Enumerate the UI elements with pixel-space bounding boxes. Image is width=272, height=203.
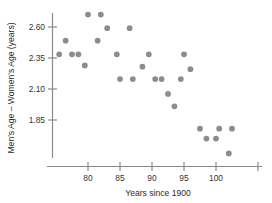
data-point	[82, 63, 88, 69]
data-point	[56, 51, 62, 57]
data-point	[159, 76, 165, 82]
data-point	[117, 76, 123, 82]
y-axis-title: Men's Age – Women's Age (years)	[6, 22, 16, 153]
data-point	[216, 126, 222, 132]
data-point	[69, 51, 75, 57]
data-point	[95, 38, 101, 44]
data-point	[181, 51, 187, 57]
x-axis-title: Years since 1900	[125, 188, 191, 198]
data-point	[104, 25, 110, 31]
data-point	[204, 136, 210, 142]
data-point	[229, 126, 235, 132]
data-point	[76, 51, 82, 57]
data-point	[172, 103, 178, 109]
x-tick-label: 85	[115, 173, 125, 183]
y-tick-label: 2.10	[29, 84, 46, 94]
y-tick-label: 2.60	[29, 22, 46, 32]
data-point	[114, 51, 120, 57]
data-point	[178, 76, 184, 82]
data-point	[130, 76, 136, 82]
x-tick-label: 95	[179, 173, 189, 183]
data-point	[98, 12, 104, 18]
y-tick-label: 1.85	[29, 115, 46, 125]
data-points	[56, 12, 235, 157]
data-point	[127, 25, 133, 31]
y-tick-label: 2.35	[29, 53, 46, 63]
x-tick-label: 100	[209, 173, 223, 183]
data-point	[146, 51, 152, 57]
x-axis-ticks: 80859095100	[83, 162, 258, 183]
data-point	[85, 12, 91, 18]
data-point	[63, 38, 69, 44]
x-tick-label: 90	[147, 173, 157, 183]
data-point	[140, 64, 146, 70]
data-point	[152, 76, 158, 82]
data-point	[197, 126, 203, 132]
data-point	[188, 66, 194, 72]
data-point	[165, 91, 171, 97]
data-point	[213, 136, 219, 142]
data-point	[226, 151, 232, 157]
x-tick-label: 80	[83, 173, 93, 183]
scatter-chart: 1.852.102.352.60 80859095100 Years since…	[0, 0, 272, 203]
